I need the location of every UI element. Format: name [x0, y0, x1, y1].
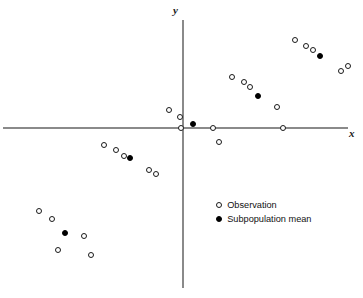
observation-point: [338, 68, 344, 74]
observation-point: [216, 139, 222, 145]
observation-point: [166, 107, 172, 113]
observation-point: [310, 47, 316, 53]
observation-point: [241, 79, 247, 85]
observation-point: [345, 63, 351, 69]
filled-circle-icon: [216, 216, 222, 222]
observation-point: [49, 216, 55, 222]
y-axis-line: [182, 20, 184, 288]
legend-item-subpopulation-mean: Subpopulation mean: [216, 212, 311, 226]
observation-point: [153, 171, 159, 177]
observation-point: [81, 233, 87, 239]
y-axis-label: y: [173, 4, 178, 16]
legend-item-observation: Observation: [216, 198, 311, 212]
legend: Observation Subpopulation mean: [216, 198, 311, 226]
observation-point: [229, 74, 235, 80]
legend-label-observation: Observation: [227, 198, 277, 212]
observation-point: [36, 208, 42, 214]
observation-point: [113, 147, 119, 153]
subpopulation-mean-point: [127, 155, 133, 161]
observation-point: [303, 43, 309, 49]
observation-point: [247, 84, 253, 90]
subpopulation-mean-point: [317, 53, 323, 59]
open-circle-icon: [216, 202, 222, 208]
subpopulation-mean-point: [62, 230, 68, 236]
scatter-plot-figure: x y Observation Subpopulation mean: [0, 0, 363, 298]
legend-label-subpopulation-mean: Subpopulation mean: [227, 212, 311, 226]
observation-point: [292, 37, 298, 43]
subpopulation-mean-point: [255, 93, 261, 99]
x-axis-line: [3, 127, 348, 129]
observation-point: [101, 142, 107, 148]
observation-point: [274, 104, 280, 110]
x-axis-label: x: [349, 127, 355, 139]
observation-point: [280, 125, 286, 131]
observation-point: [146, 167, 152, 173]
observation-point: [210, 125, 216, 131]
observation-point: [88, 252, 94, 258]
observation-point: [55, 247, 61, 253]
